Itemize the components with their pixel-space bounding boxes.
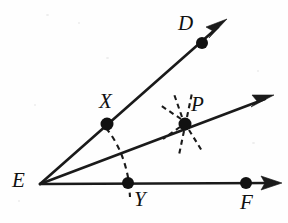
point-dot-p: [179, 118, 192, 131]
dashed-tick-lower-right: [189, 130, 202, 151]
label-point-x: X: [99, 91, 112, 112]
geometry-diagram: E D X P Y F: [0, 0, 288, 223]
point-dot-x: [101, 118, 114, 131]
label-point-f: F: [240, 192, 253, 213]
ray-ep-arrowhead: [251, 95, 274, 107]
dashed-tick-up-left: [174, 94, 182, 117]
label-point-e: E: [12, 170, 25, 191]
point-dot-y: [122, 177, 134, 189]
label-point-y: Y: [134, 189, 146, 210]
point-dot-f: [240, 177, 252, 189]
ray-ep-line: [40, 99, 265, 184]
ray-ef-line: [40, 183, 272, 184]
label-point-d: D: [178, 13, 193, 34]
point-dot-d: [196, 37, 208, 49]
dashed-tick-down: [179, 131, 184, 155]
label-point-p: P: [191, 94, 204, 115]
ray-ep: [40, 95, 274, 184]
